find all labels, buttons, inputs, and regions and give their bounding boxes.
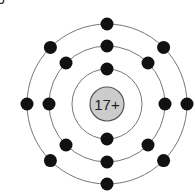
electron — [142, 57, 155, 70]
electron — [159, 98, 172, 111]
electron — [101, 18, 114, 31]
electron — [142, 139, 155, 152]
electron — [60, 57, 73, 70]
electron — [101, 133, 114, 146]
nucleus: 17+ — [90, 87, 124, 121]
electron — [44, 41, 57, 54]
electron — [157, 41, 170, 54]
electron — [101, 63, 114, 76]
electron — [101, 178, 114, 191]
electron — [101, 40, 114, 53]
nucleus-charge-label: 17+ — [94, 96, 120, 113]
electron — [101, 156, 114, 169]
electron — [157, 154, 170, 167]
electron — [43, 98, 56, 111]
electron — [21, 98, 34, 111]
electron — [181, 98, 194, 111]
electron — [44, 154, 57, 167]
electron — [60, 139, 73, 152]
atom-diagram: 17+ — [0, 0, 195, 193]
